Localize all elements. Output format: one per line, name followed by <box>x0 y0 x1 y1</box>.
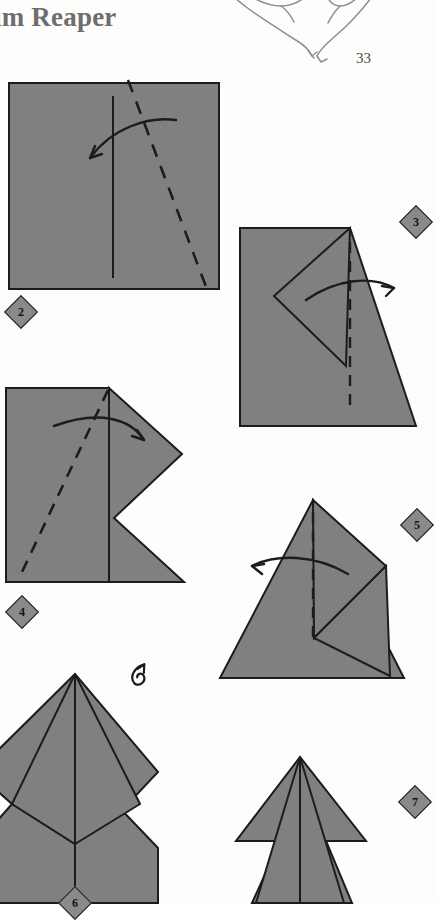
step-2-diagram <box>8 82 220 290</box>
step-4-diagram <box>4 386 200 586</box>
step-6-diagram <box>0 672 162 903</box>
step-number-label: 6 <box>58 886 92 920</box>
step-badge-5: 5 <box>400 508 434 542</box>
step-5-diagram <box>218 498 408 680</box>
step-badge-3: 3 <box>399 205 433 239</box>
page-title: im Reaper <box>0 2 117 33</box>
page-number: 33 <box>356 50 371 67</box>
paper-point <box>109 388 184 582</box>
step-number-label: 4 <box>5 595 39 629</box>
step-number-label: 3 <box>399 205 433 239</box>
step-badge-7: 7 <box>398 785 432 819</box>
step-3-diagram <box>238 226 428 431</box>
turn-over-icon <box>124 652 164 692</box>
step-badge-2: 2 <box>4 295 38 329</box>
step-number-label: 2 <box>4 295 38 329</box>
bat-silhouette-icon <box>195 0 435 79</box>
step-badge-6: 6 <box>58 886 92 920</box>
step-number-label: 5 <box>400 508 434 542</box>
step-badge-4: 4 <box>5 595 39 629</box>
step-7-diagram <box>222 755 382 903</box>
step-number-label: 7 <box>398 785 432 819</box>
